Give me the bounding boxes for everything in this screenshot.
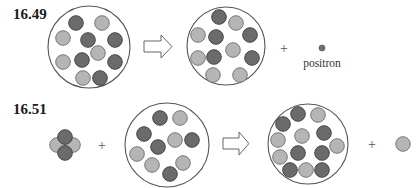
neutron-ball [130,147,145,162]
neutron-ball [330,139,345,154]
nuclear-reactions-diagram: 16.49 + positron 16.51 + + [0,0,419,188]
proton-ball [58,146,73,161]
neutron-ball [95,16,110,31]
proton-ball [108,55,123,70]
plus-sign: + [280,41,288,56]
proton-ball [151,140,166,155]
proton-ball [209,30,224,45]
proton-ball [212,10,227,25]
neutron-ball [56,31,71,46]
problem-label-16-51: 16.51 [13,101,47,117]
neutron-ball [191,28,206,43]
emitted-neutron [396,137,411,152]
product-nucleus-16-49 [187,7,265,85]
proton-ball [153,111,168,126]
neutron-ball [396,137,411,152]
neutron-ball [226,43,241,58]
positron-particle [319,45,325,51]
reaction-arrow-16-51 [223,132,249,155]
proton-ball [315,163,330,178]
neutron-ball [233,68,248,83]
product-nucleus-16-51 [268,104,348,184]
proton-ball [69,16,84,31]
neutron-ball [76,71,91,86]
proton-ball [207,50,222,65]
proton-ball [291,146,306,161]
neutron-ball [91,46,106,61]
reactant-nucleus-16-49 [48,6,130,88]
reaction-arrow-16-49 [144,35,172,58]
target-nucleus-16-51 [125,103,209,187]
proton-ball [315,146,330,161]
neutron-ball [168,133,183,148]
neutron-ball [56,55,71,70]
neutron-ball [299,163,314,178]
proton-ball [245,51,260,66]
proton-ball [163,167,178,182]
positron-label: positron [303,57,341,70]
proton-ball [276,117,291,132]
proton-ball [291,107,306,122]
neutron-ball [311,108,326,123]
neutron-ball [206,68,221,83]
neutron-ball [191,51,206,66]
neutron-ball [229,16,244,31]
proton-ball [75,53,90,68]
proton-ball [283,163,298,178]
neutron-ball [173,111,188,126]
neutron-ball [271,133,286,148]
proton-ball [108,33,123,48]
proton-ball [81,33,96,48]
proton-ball [58,130,73,145]
neutron-ball [176,156,191,171]
neutron-ball [295,129,310,144]
neutron-ball [273,150,288,165]
neutron-ball [145,158,160,173]
proton-ball [93,71,108,86]
problem-label-16-49: 16.49 [13,6,47,22]
proton-ball [317,126,332,141]
plus-sign: + [98,138,106,153]
proton-ball [185,133,200,148]
alpha-particle [50,130,81,161]
proton-ball [243,28,258,43]
plus-sign: + [368,137,376,152]
proton-ball [137,127,152,142]
